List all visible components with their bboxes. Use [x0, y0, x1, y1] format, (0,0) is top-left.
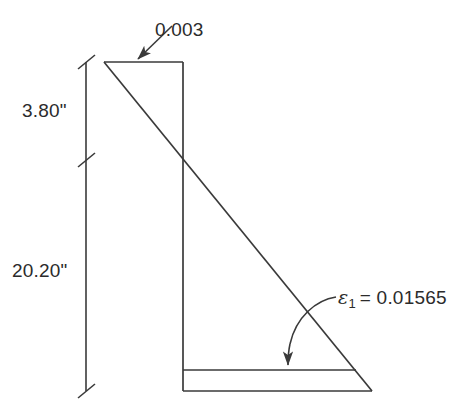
epsilon-subscript: 1	[348, 297, 356, 310]
strain-block-outline	[104, 62, 372, 391]
leader-arrow-curved-icon	[288, 344, 290, 365]
dimension-line-group	[78, 55, 95, 398]
bottom-strain-label: ε1= 0.01565	[338, 288, 447, 307]
leader-arc-curved	[290, 297, 336, 344]
strain-diagonal-line	[104, 62, 372, 391]
upper-dimension-label: 3.80"	[22, 101, 67, 120]
strain-diagram-canvas	[0, 0, 472, 419]
strain-diagram-figure: 0.003 3.80" 20.20" ε1= 0.01565	[0, 0, 472, 419]
epsilon-symbol: ε	[338, 288, 348, 307]
epsilon-value: = 0.01565	[357, 288, 447, 307]
bottom-strain-leader	[288, 297, 336, 365]
top-strain-label: 0.003	[155, 20, 204, 39]
lower-dimension-label: 20.20"	[12, 261, 68, 280]
